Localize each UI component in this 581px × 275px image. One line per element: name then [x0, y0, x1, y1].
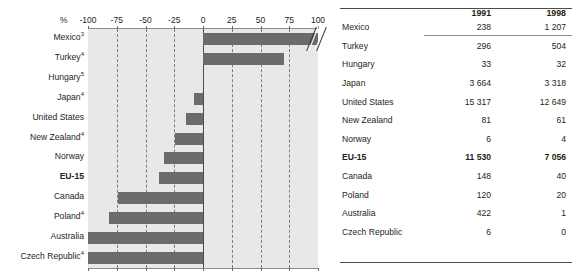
table-cell-1998: 1 [501, 204, 576, 223]
table-cell-1998: 1 207 [501, 18, 576, 37]
table-cell-1991: 296 [426, 37, 501, 56]
gridline-75 [289, 29, 290, 268]
table-cell-country: Czech Republic [338, 223, 426, 242]
x-tick-label-neg75: -75 [111, 15, 123, 25]
category-label-eu-15: EU-15 [0, 171, 86, 181]
category-label-japan: Japan4 [0, 92, 86, 102]
footnote-marker: 4 [81, 210, 84, 216]
table-cell-country: Mexico [338, 18, 426, 37]
table-cell-1991: 148 [426, 167, 501, 186]
tick-top-75 [289, 26, 290, 29]
table-header-row: 1991 1998 [338, 8, 576, 18]
table-row: Australia4221 [338, 204, 576, 223]
tick-top-100 [318, 26, 319, 29]
data-table-panel: 1991 1998 Mexico2381 207Turkey296504Hung… [338, 0, 581, 275]
table-header-1998: 1998 [501, 8, 576, 18]
table-cell-1998: 4 [501, 130, 576, 149]
category-label-poland: Poland4 [0, 211, 86, 221]
table-row: EU-1511 5307 056 [338, 148, 576, 167]
bar-united-states [186, 113, 203, 125]
category-label-czech-republic: Czech Republic4 [0, 251, 86, 261]
tick-top-neg25 [174, 26, 175, 29]
bar-norway [164, 152, 203, 164]
tick-bottom-neg75 [117, 268, 118, 271]
plot-area [88, 28, 318, 269]
table-cell-1991: 6 [426, 223, 501, 242]
table-header-blank [338, 8, 426, 18]
table-row: Turkey296504 [338, 37, 576, 56]
footnote-marker: 4 [81, 250, 84, 256]
table-cell-1991: 422 [426, 204, 501, 223]
tick-bottom-50 [261, 268, 262, 271]
category-label-mexico: Mexico3 [0, 32, 86, 42]
table-row: Japan3 6643 318 [338, 74, 576, 93]
footnote-marker: 4 [81, 51, 84, 57]
bar-mexico [203, 33, 318, 45]
bar-eu-15 [159, 172, 203, 184]
table-cell-1998: 20 [501, 185, 576, 204]
table-cell-1991: 238 [426, 18, 501, 37]
table-cell-1991: 120 [426, 185, 501, 204]
bar-japan [194, 93, 203, 105]
table-cell-country: Norway [338, 130, 426, 149]
bar-new-zealand [175, 133, 203, 145]
table-cell-1998: 504 [501, 37, 576, 56]
tick-bottom-neg50 [146, 268, 147, 271]
table-cell-1998: 61 [501, 111, 576, 130]
table-cell-country: Australia [338, 204, 426, 223]
tick-bottom-75 [289, 268, 290, 271]
bar-canada [118, 192, 203, 204]
tick-bottom-25 [232, 268, 233, 271]
category-label-new-zealand: New Zealand4 [0, 132, 86, 142]
table-cell-1991: 6 [426, 130, 501, 149]
table-row: United States15 31712 649 [338, 92, 576, 111]
bar-turkey [203, 53, 284, 65]
tick-top-0 [203, 26, 204, 29]
bar-chart-panel: %-100-75-50-250255075100 Mexico3Turkey4H… [0, 0, 334, 275]
bar-australia [88, 232, 203, 244]
x-tick-label-neg50: -50 [139, 15, 151, 25]
table-cell-1998: 12 649 [501, 92, 576, 111]
table-cell-1998: 32 [501, 55, 576, 74]
tick-top-25 [232, 26, 233, 29]
tick-top-neg75 [117, 26, 118, 29]
table-body: Mexico2381 207Turkey296504Hungary3332Jap… [338, 18, 576, 241]
table-cell-country: EU-15 [338, 148, 426, 167]
table-cell-1998: 7 056 [501, 148, 576, 167]
table-row: Mexico2381 207 [338, 18, 576, 37]
table-row: Canada14840 [338, 167, 576, 186]
table-row: Hungary3332 [338, 55, 576, 74]
category-label-norway: Norway [0, 151, 86, 161]
category-label-turkey: Turkey4 [0, 52, 86, 62]
table-cell-1998: 40 [501, 167, 576, 186]
table-header-1991: 1991 [426, 8, 501, 18]
footnote-marker: 3 [81, 31, 84, 37]
table-cell-country: New Zealand [338, 111, 426, 130]
bar-czech-republic [88, 252, 203, 264]
x-tick-label-0: 0 [201, 15, 206, 25]
tick-bottom-neg100 [88, 268, 89, 271]
tick-top-neg50 [146, 26, 147, 29]
category-label-canada: Canada [0, 191, 86, 201]
table-row: Czech Republic60 [338, 223, 576, 242]
tick-bottom-neg25 [174, 268, 175, 271]
table-cell-1998: 3 318 [501, 74, 576, 93]
x-tick-label-neg100: -100 [79, 15, 96, 25]
x-tick-label-50: 50 [256, 15, 265, 25]
x-tick-label-75: 75 [285, 15, 294, 25]
x-tick-label-neg25: -25 [168, 15, 180, 25]
tick-bottom-100 [318, 268, 319, 271]
table-cell-country: Turkey [338, 37, 426, 56]
statistics-table: 1991 1998 Mexico2381 207Turkey296504Hung… [338, 8, 576, 241]
table-cell-country: Poland [338, 185, 426, 204]
table-cell-country: Japan [338, 74, 426, 93]
table-cell-1991: 15 317 [426, 92, 501, 111]
table-cell-1998: 0 [501, 223, 576, 242]
table-row: New Zealand8161 [338, 111, 576, 130]
x-axis-unit-label: % [60, 15, 68, 25]
x-tick-label-100: 100 [311, 15, 325, 25]
table-cell-1991: 81 [426, 111, 501, 130]
table-cell-1991: 11 530 [426, 148, 501, 167]
category-label-united-states: United States [0, 112, 86, 122]
table-cell-1991: 33 [426, 55, 501, 74]
